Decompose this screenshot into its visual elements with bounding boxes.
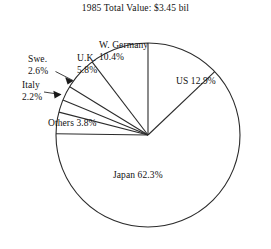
slice-label-uk-name: U.K. bbox=[77, 53, 97, 65]
leader-line-swe bbox=[56, 72, 74, 81]
slice-label-swe: Swe. 2.6% bbox=[28, 54, 48, 77]
slice-label-uk: U.K. 5.8% bbox=[77, 53, 97, 76]
slice-label-wgermany-name: W. Germany bbox=[99, 40, 148, 52]
slice-label-us: US 12.9% bbox=[176, 76, 216, 87]
leader-arrow-italy-icon bbox=[53, 91, 61, 99]
slice-label-swe-value: 2.6% bbox=[28, 66, 48, 78]
slice-label-uk-value: 5.8% bbox=[77, 65, 97, 77]
pie-chart-figure: 1985 Total Value: $3.45 bil US 12.9% Jap… bbox=[0, 0, 271, 249]
slice-label-others: Others 3.8% bbox=[48, 118, 97, 129]
slice-label-italy: Italy 2.2% bbox=[22, 80, 42, 103]
slice-label-wgermany: W. Germany 10.4% bbox=[99, 40, 148, 63]
slice-label-wgermany-value: 10.4% bbox=[99, 52, 148, 64]
slice-label-swe-name: Swe. bbox=[28, 54, 48, 66]
slice-label-italy-value: 2.2% bbox=[22, 92, 42, 104]
pie-chart-svg bbox=[0, 0, 271, 249]
slice-label-italy-name: Italy bbox=[22, 80, 42, 92]
slice-label-japan: Japan 62.3% bbox=[113, 170, 163, 181]
